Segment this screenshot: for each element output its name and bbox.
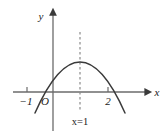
y-axis-label: y — [38, 10, 44, 22]
origin-label: O — [41, 95, 49, 107]
x-tick-label-minus-one: −1 — [20, 95, 33, 107]
x-axis-label: x — [154, 86, 160, 98]
x-tick-label-two: 2 — [105, 95, 111, 107]
parabola-figure: y x O −1 2 x=1 — [0, 0, 165, 139]
axis-of-symmetry-label: x=1 — [72, 116, 88, 127]
